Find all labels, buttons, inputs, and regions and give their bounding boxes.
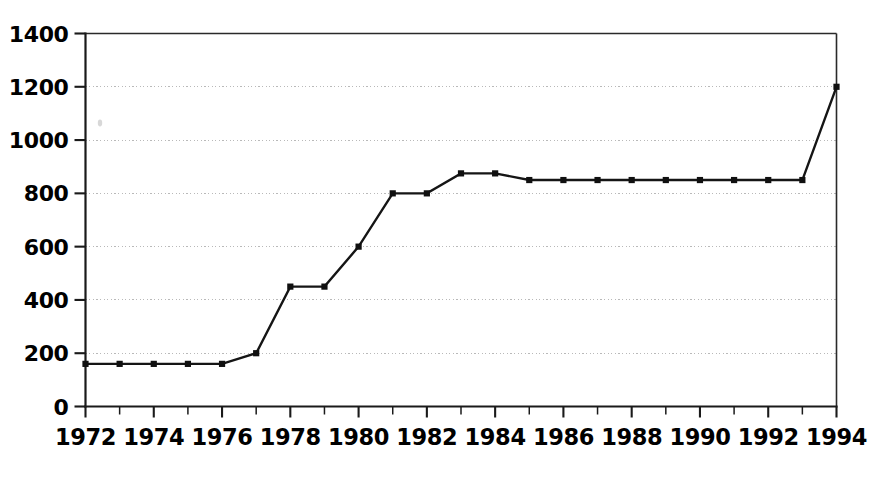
data-point-1982 — [424, 190, 430, 196]
data-point-1994 — [833, 84, 839, 90]
x-tick-label-1976: 1976 — [192, 424, 253, 450]
x-tick-label-1982: 1982 — [396, 424, 457, 450]
y-tick-label-0: 0 — [54, 395, 69, 420]
x-tick-label-1972: 1972 — [55, 424, 116, 450]
data-point-1973 — [117, 361, 123, 367]
data-point-1992 — [765, 177, 771, 183]
data-point-1978 — [287, 284, 293, 290]
y-tick-label-600: 600 — [24, 235, 69, 260]
data-point-1977 — [253, 350, 259, 356]
data-point-1983 — [458, 170, 464, 176]
x-tick-label-1984: 1984 — [465, 424, 526, 450]
data-point-1990 — [697, 177, 703, 183]
data-point-1975 — [185, 361, 191, 367]
y-tick-label-1000: 1000 — [9, 128, 69, 153]
y-tick-label-400: 400 — [24, 288, 69, 313]
x-tick-label-1990: 1990 — [669, 424, 730, 450]
data-point-1993 — [799, 177, 805, 183]
data-point-1987 — [594, 177, 600, 183]
x-tick-label-1986: 1986 — [533, 424, 594, 450]
data-point-1989 — [663, 177, 669, 183]
scan-artifact-speck — [98, 120, 102, 127]
line-chart: 0200400600800100012001400 19721974197619… — [0, 0, 875, 495]
chart-canvas: 0200400600800100012001400 19721974197619… — [0, 0, 875, 495]
data-point-1985 — [526, 177, 532, 183]
data-point-1972 — [82, 361, 88, 367]
x-tick-label-1974: 1974 — [123, 424, 184, 450]
x-tick-label-1978: 1978 — [260, 424, 321, 450]
data-point-1980 — [355, 244, 361, 250]
x-tick-label-1994: 1994 — [806, 424, 867, 450]
x-tick-label-1988: 1988 — [601, 424, 662, 450]
data-point-1976 — [219, 361, 225, 367]
data-point-1986 — [560, 177, 566, 183]
x-tick-label-1992: 1992 — [738, 424, 799, 450]
y-tick-label-1400: 1400 — [9, 22, 69, 47]
x-tick-label-1980: 1980 — [328, 424, 389, 450]
data-point-1988 — [629, 177, 635, 183]
y-tick-label-1200: 1200 — [9, 75, 69, 100]
y-tick-label-800: 800 — [24, 181, 69, 206]
data-point-1991 — [731, 177, 737, 183]
data-point-1984 — [492, 170, 498, 176]
y-tick-label-200: 200 — [24, 341, 69, 366]
data-point-1981 — [390, 190, 396, 196]
data-point-1974 — [151, 361, 157, 367]
chart-background — [0, 0, 875, 495]
data-point-1979 — [321, 284, 327, 290]
